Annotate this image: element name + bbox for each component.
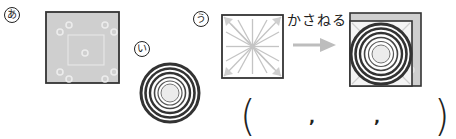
- result-overlapped-figure: [349, 12, 423, 88]
- right-arrow-icon: [292, 36, 338, 54]
- answer-open-paren: (: [240, 95, 256, 137]
- figure-a-label: あ: [4, 7, 20, 23]
- answer-separator-1: ,: [309, 108, 315, 127]
- figure-u-label: う: [193, 11, 209, 27]
- operation-label: かさねる: [287, 9, 347, 29]
- figure-i-label: い: [134, 41, 150, 57]
- answer-close-paren: ): [434, 95, 450, 137]
- answer-separator-2: ,: [374, 108, 380, 127]
- figure-i-concentric-circles: [139, 62, 201, 124]
- figure-a-gray-square: [45, 11, 121, 85]
- figure-u-radiating-square: [221, 14, 285, 80]
